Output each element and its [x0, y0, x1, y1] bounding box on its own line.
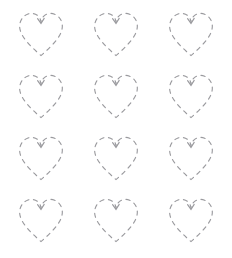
heart-icon	[90, 71, 142, 123]
heart-outline-path	[20, 13, 63, 55]
heart-r2-c2	[79, 66, 154, 128]
heart-r1-c3	[153, 4, 228, 66]
heart-outline-path	[95, 75, 138, 117]
heart-icon	[15, 133, 67, 185]
heart-outline-path	[95, 199, 138, 241]
heart-r2-c3	[153, 66, 228, 128]
heart-icon	[90, 133, 142, 185]
heart-r1-c2	[79, 4, 154, 66]
heart-outline-path	[95, 13, 138, 55]
heart-outline-path	[169, 137, 212, 179]
heart-icon	[15, 195, 67, 247]
heart-r3-c1	[4, 128, 79, 190]
heart-icon	[165, 133, 217, 185]
heart-outline-path	[169, 199, 212, 241]
page-canvas	[0, 0, 232, 258]
heart-outline-path	[95, 137, 138, 179]
heart-r4-c2	[79, 190, 154, 252]
heart-r3-c2	[79, 128, 154, 190]
heart-r3-c3	[153, 128, 228, 190]
heart-icon	[15, 9, 67, 61]
heart-r1-c1	[4, 4, 79, 66]
heart-outline-path	[169, 75, 212, 117]
heart-grid	[0, 0, 232, 258]
heart-r2-c1	[4, 66, 79, 128]
heart-r4-c1	[4, 190, 79, 252]
heart-icon	[165, 195, 217, 247]
heart-icon	[90, 9, 142, 61]
heart-icon	[15, 71, 67, 123]
heart-outline-path	[20, 137, 63, 179]
heart-icon	[90, 195, 142, 247]
heart-outline-path	[20, 199, 63, 241]
heart-icon	[165, 9, 217, 61]
heart-icon	[165, 71, 217, 123]
heart-r4-c3	[153, 190, 228, 252]
heart-outline-path	[169, 13, 212, 55]
heart-outline-path	[20, 75, 63, 117]
